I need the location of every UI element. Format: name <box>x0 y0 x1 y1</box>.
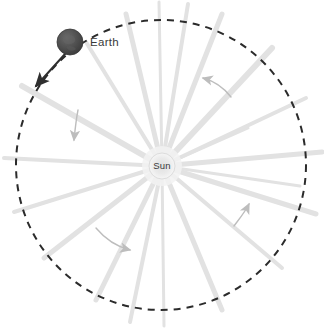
sun-ray <box>162 166 164 326</box>
earth-label: Earth <box>90 36 119 48</box>
sun-label: Sun <box>153 160 171 171</box>
sun-body: Sun <box>142 146 182 186</box>
orbit-diagram: Sun Earth <box>0 0 324 328</box>
earth-body <box>57 29 83 55</box>
